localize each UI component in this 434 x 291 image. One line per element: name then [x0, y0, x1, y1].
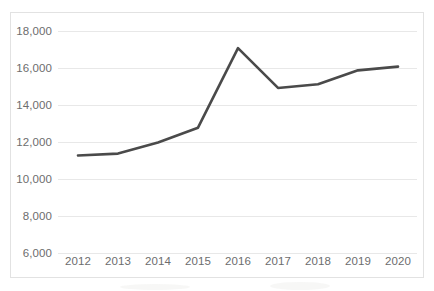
ytick-label: 14,000 — [6, 99, 52, 111]
data-series-line — [78, 48, 398, 155]
line-chart-figure: 18,000 16,000 14,000 12,000 10,000 8,000… — [0, 0, 434, 291]
gridline-group — [58, 32, 417, 254]
ytick-label: 12,000 — [6, 136, 52, 148]
ytick-label: 10,000 — [6, 173, 52, 185]
chart-canvas — [0, 0, 434, 291]
xtick-label: 2020 — [378, 255, 418, 267]
xtick-label: 2015 — [178, 255, 218, 267]
xtick-label: 2012 — [58, 255, 98, 267]
ytick-label: 6,000 — [6, 247, 52, 259]
xtick-label: 2018 — [298, 255, 338, 267]
xtick-label: 2016 — [218, 255, 258, 267]
ytick-label: 16,000 — [6, 62, 52, 74]
ytick-label: 18,000 — [6, 25, 52, 37]
xtick-label: 2019 — [338, 255, 378, 267]
xtick-label: 2013 — [98, 255, 138, 267]
ytick-label: 8,000 — [6, 210, 52, 222]
xtick-label: 2017 — [258, 255, 298, 267]
xtick-label: 2014 — [138, 255, 178, 267]
